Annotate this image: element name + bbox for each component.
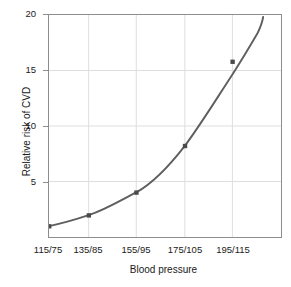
x-tick-label-195-115: 195/115 bbox=[216, 244, 250, 255]
y-tick-label-20: 20 bbox=[25, 9, 36, 19]
x-axis-title-text: Blood pressure bbox=[130, 264, 197, 275]
data-point-175-105 bbox=[183, 144, 187, 148]
cropped-caption-sliver bbox=[60, 0, 240, 5]
y-axis-title: Relative risk of CVD bbox=[21, 57, 32, 207]
data-point-115-75 bbox=[49, 224, 51, 228]
x-tick-label-115-75: 115/75 bbox=[34, 244, 62, 255]
x-axis-title: Blood pressure bbox=[0, 264, 291, 275]
plot-area bbox=[48, 14, 282, 238]
plot-svg bbox=[49, 15, 281, 237]
data-point-195-115 bbox=[230, 60, 234, 64]
data-point-markers bbox=[49, 60, 235, 229]
x-tick-label-155-95: 155/95 bbox=[121, 244, 150, 255]
x-tick-label-135-85: 135/85 bbox=[73, 244, 102, 255]
data-point-155-95 bbox=[134, 190, 138, 194]
x-tick-label-175-105: 175/105 bbox=[168, 244, 202, 255]
risk-curve bbox=[49, 17, 263, 226]
chart-figure: 20 15 10 5 Relative risk of CVD bbox=[0, 0, 291, 287]
horizontal-gridlines bbox=[49, 71, 281, 182]
data-point-135-85 bbox=[87, 213, 91, 217]
x-axis-ticks: 115/75 135/85 155/95 175/105 195/115 bbox=[0, 244, 291, 260]
